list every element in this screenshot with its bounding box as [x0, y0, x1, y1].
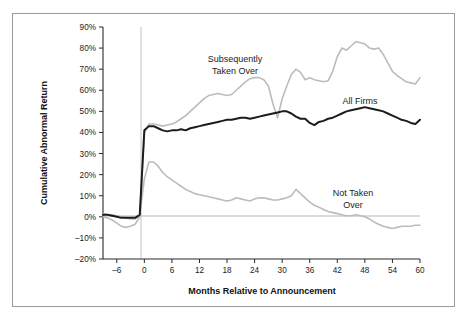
subsequently-taken-over-label-line1: Subsequently: [208, 54, 263, 64]
chart-figure: –20%–10%0%10%20%30%40%50%60%70%80%90% –6…: [0, 0, 469, 321]
x-tick-label-24: 24: [250, 266, 260, 275]
series-line-subsequently-taken-over: [103, 42, 420, 228]
y-tick-label-20: 20%: [80, 171, 96, 180]
x-axis-ticks: –606121824303642485460: [112, 259, 425, 275]
x-axis-title: Months Relative to Announcement: [188, 286, 336, 296]
not-taken-over-label-line2: Over: [343, 200, 363, 210]
x-tick-label-30: 30: [278, 266, 288, 275]
y-tick-label-70: 70%: [80, 65, 96, 74]
y-tick-label-40: 40%: [80, 128, 96, 137]
y-axis-title: Cumulative Abnormal Return: [39, 81, 49, 205]
x-tick-label-12: 12: [195, 266, 205, 275]
x-tick-label-18: 18: [222, 266, 232, 275]
y-tick-label--10: –10%: [75, 234, 96, 243]
y-tick-label-10: 10%: [80, 192, 96, 201]
x-tick-label-54: 54: [388, 266, 398, 275]
y-tick-label-60: 60%: [80, 86, 96, 95]
subsequently-taken-over-label-line2: Taken Over: [212, 66, 258, 76]
y-axis-ticks: –20%–10%0%10%20%30%40%50%60%70%80%90%: [75, 23, 103, 264]
x-tick-label-0: 0: [142, 266, 147, 275]
all-firms-label: All Firms: [343, 96, 378, 106]
x-tick-label-36: 36: [305, 266, 315, 275]
y-tick-label-30: 30%: [80, 150, 96, 159]
x-tick-label-6: 6: [170, 266, 175, 275]
y-tick-label--20: –20%: [75, 255, 96, 264]
y-tick-label-50: 50%: [80, 107, 96, 116]
y-tick-label-80: 80%: [80, 44, 96, 53]
y-tick-label-90: 90%: [80, 23, 96, 32]
x-tick-label--6: –6: [112, 266, 122, 275]
x-tick-label-48: 48: [360, 266, 370, 275]
x-tick-label-42: 42: [333, 266, 343, 275]
y-tick-label-0: 0%: [84, 213, 96, 222]
x-tick-label-60: 60: [415, 266, 425, 275]
not-taken-over-label-line1: Not Taken: [333, 188, 373, 198]
